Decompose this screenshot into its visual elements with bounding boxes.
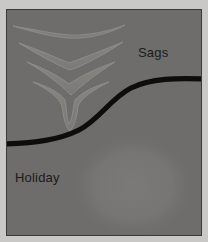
holiday-blob bbox=[69, 132, 197, 235]
sag-profile-1 bbox=[13, 25, 125, 38]
boundary-curve bbox=[7, 79, 201, 144]
diagram-canvas bbox=[7, 10, 201, 235]
holiday-label: Holiday bbox=[15, 171, 60, 184]
sags-label: Sags bbox=[138, 46, 168, 59]
diagram-panel: Sags Holiday bbox=[6, 9, 202, 236]
coating-defect-figure: Sags Holiday bbox=[0, 0, 208, 242]
